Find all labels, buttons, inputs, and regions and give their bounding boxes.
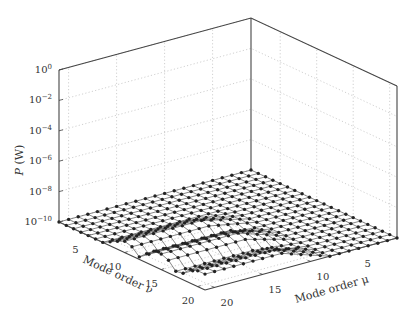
data-point (256, 233, 259, 236)
data-point (342, 240, 345, 243)
data-point (154, 216, 157, 219)
data-point (223, 267, 226, 270)
data-point (123, 230, 126, 233)
data-point (72, 227, 75, 230)
data-point (167, 259, 170, 262)
data-point (145, 252, 148, 255)
data-point (338, 252, 341, 255)
data-point (197, 193, 200, 196)
nu-tick-label: 20 (182, 295, 195, 306)
data-point (110, 217, 113, 220)
data-point (231, 215, 234, 218)
data-point (289, 222, 292, 225)
data-point (173, 189, 176, 192)
data-point (191, 239, 194, 242)
data-point (262, 181, 265, 184)
data-point (118, 220, 121, 223)
data-point (190, 211, 193, 214)
data-point (256, 249, 259, 252)
data-point (234, 240, 237, 243)
data-point (173, 211, 176, 214)
data-point (271, 254, 274, 257)
data-point (170, 195, 173, 198)
data-point (171, 227, 174, 230)
data-point (262, 203, 265, 206)
data-point (229, 218, 232, 221)
mu-tick-label: 5 (365, 258, 371, 269)
data-point (284, 234, 287, 237)
data-point (134, 200, 137, 203)
mu-tick-label: 20 (221, 297, 234, 308)
data-point (132, 227, 135, 230)
data-point (273, 248, 276, 251)
mu-axis-label: Mode order μ (293, 272, 370, 306)
data-point (345, 234, 348, 237)
data-point (187, 196, 190, 199)
axis-box-frame (59, 18, 397, 290)
data-point (293, 189, 296, 192)
data-point (233, 189, 236, 192)
data-point (236, 204, 239, 207)
data-point (79, 231, 82, 234)
data-point (98, 225, 101, 228)
data-point (115, 226, 118, 229)
data-point (140, 242, 143, 245)
data-point (282, 219, 285, 222)
data-point (184, 267, 187, 270)
data-point (101, 241, 104, 244)
data-point (171, 217, 174, 220)
data-point (240, 192, 243, 195)
data-point (180, 214, 183, 217)
data-point (194, 199, 197, 202)
data-point (150, 240, 153, 243)
data-point (196, 251, 199, 254)
data-point (151, 222, 154, 225)
data-point (213, 270, 216, 273)
data-point (108, 223, 111, 226)
data-point (246, 252, 249, 255)
data-point (216, 188, 219, 191)
data-point (354, 231, 357, 234)
data-point (203, 262, 206, 265)
data-point (328, 255, 331, 258)
data-point (176, 256, 179, 259)
data-point (189, 190, 192, 193)
data-point (286, 185, 289, 188)
data-point (253, 226, 256, 229)
mu-tick-label: 10 (317, 271, 330, 282)
data-point (219, 218, 222, 221)
data-point (284, 191, 287, 194)
data-point (204, 197, 207, 200)
z-tick-label: 100 (35, 63, 52, 75)
data-point (280, 244, 283, 247)
data-point (386, 239, 389, 242)
data-point (342, 219, 345, 222)
data-point (282, 249, 285, 252)
data-point (241, 251, 244, 254)
data-point (166, 207, 169, 210)
data-point (156, 210, 159, 213)
data-point (289, 242, 292, 245)
data-point (294, 232, 297, 235)
data-point (171, 244, 174, 247)
data-point (282, 238, 285, 241)
data-point (192, 184, 195, 187)
data-point (277, 231, 280, 234)
data-point (135, 234, 138, 237)
data-point (309, 238, 312, 241)
data-point (158, 204, 161, 207)
data-point (255, 199, 258, 202)
data-point (320, 230, 323, 233)
data-point (325, 239, 328, 242)
data-point (193, 219, 196, 222)
data-point (145, 232, 148, 235)
data-point (123, 240, 126, 243)
data-point (135, 221, 138, 224)
data-point (395, 236, 398, 239)
data-point (308, 196, 311, 199)
data-point (268, 249, 271, 252)
data-point (152, 232, 155, 235)
data-point (311, 232, 314, 235)
surface-plot: 10010−210−410−610−810−10 5101520 5101520… (0, 0, 413, 318)
data-point (221, 176, 224, 179)
